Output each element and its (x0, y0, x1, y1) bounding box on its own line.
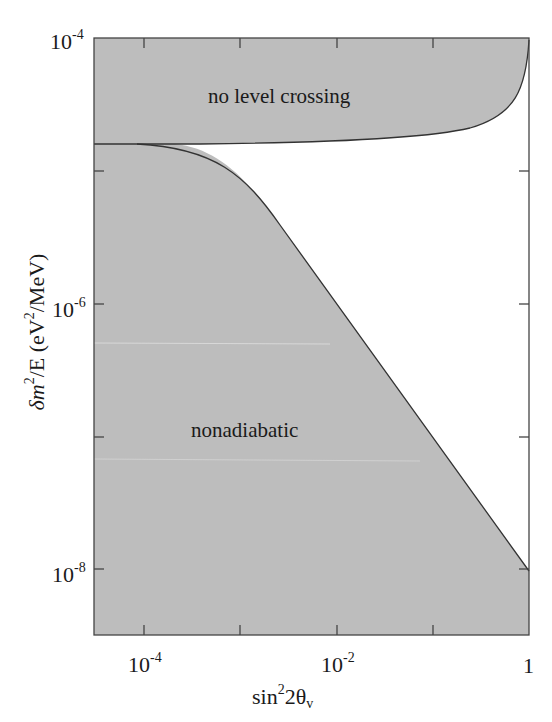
y-tick-label-1e-4: 10-4 (50, 28, 84, 53)
x-tick-label-1e-2: 10-2 (321, 651, 355, 676)
y-axis-label: δm2/E (eV2/MeV) (22, 212, 50, 452)
y-tick-label-1e-8: 10-8 (52, 561, 86, 586)
nonadiabatic-region (94, 144, 529, 635)
region-label-nonadiabatic: nonadiabatic (191, 418, 298, 443)
region-label-no-level-crossing: no level crossing (208, 84, 350, 109)
x-axis-label: sin22θv (252, 682, 313, 712)
x-tick-label-1e-4: 10-4 (128, 651, 162, 676)
x-tick-label-1: 1 (523, 655, 534, 677)
y-tick-label-1e-6: 10-6 (52, 296, 86, 321)
